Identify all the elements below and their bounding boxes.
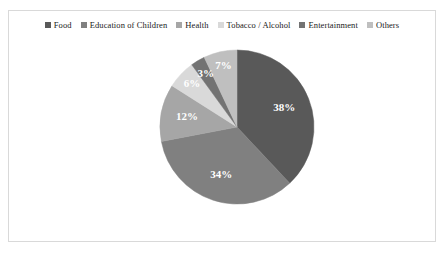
chart-container: FoodEducation of ChildrenHealthTobacco /… [8, 10, 436, 242]
pie-slice-label: 3% [197, 67, 214, 79]
pie-slice-label: 6% [184, 77, 201, 89]
pie-slice-label: 12% [176, 110, 198, 122]
pie-chart-svg: 38%34%12%6%3%7% [83, 49, 363, 221]
pie-slice-label: 38% [273, 101, 295, 113]
pie-slice-label: 7% [215, 59, 232, 71]
pie-chart-area: 38%34%12%6%3%7% [9, 11, 435, 241]
pie-slice-label: 34% [210, 168, 232, 180]
